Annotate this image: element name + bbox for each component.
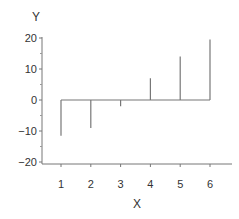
y-tick-label: −10 — [18, 125, 37, 137]
x-tick-label: 3 — [118, 178, 124, 190]
y-axis-title: Y — [32, 10, 40, 24]
x-tick-label: 5 — [177, 178, 183, 190]
y-tick-label: 0 — [31, 94, 37, 106]
y-tick-label: −20 — [18, 156, 37, 168]
stem-series — [61, 40, 210, 136]
stem-chart: 20100−10−20 123456 Y X — [0, 0, 239, 219]
y-axis: 20100−10−20 — [18, 32, 42, 168]
x-axis-title: X — [133, 197, 141, 211]
x-axis: 123456 — [42, 164, 232, 190]
x-tick-label: 2 — [88, 178, 94, 190]
x-tick-label: 4 — [147, 178, 153, 190]
y-tick-label: 10 — [25, 63, 37, 75]
x-tick-label: 1 — [58, 178, 64, 190]
x-tick-label: 6 — [207, 178, 213, 190]
y-tick-label: 20 — [25, 32, 37, 44]
